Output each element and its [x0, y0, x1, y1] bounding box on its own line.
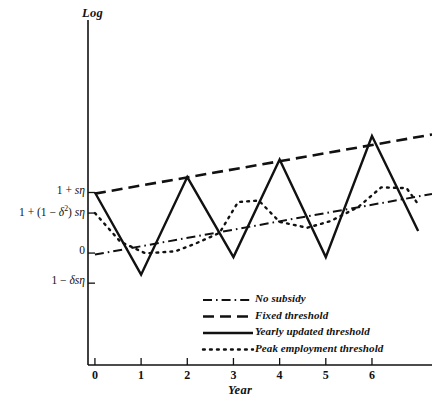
x-tick-label: 3	[223, 368, 243, 383]
x-tick-label: 4	[270, 368, 290, 383]
x-axis-title: Year	[228, 383, 252, 398]
chart-series-layer	[95, 135, 432, 275]
legend-label: Peak employment threshold	[255, 342, 383, 354]
y-tick-label: 0	[79, 244, 85, 256]
legend-label: No subsidy	[255, 292, 306, 304]
x-axis-ticks	[95, 358, 372, 365]
x-tick-label: 2	[177, 368, 197, 383]
x-tick-label: 5	[316, 368, 336, 383]
y-tick-label: 1 − δsη	[51, 274, 85, 286]
legend-label: Yearly updated threshold	[255, 325, 370, 337]
y-tick-label: 1 + sη	[57, 184, 85, 196]
y-tick-label: 1 + (1 − δ2) sη	[19, 204, 85, 218]
x-tick-label: 6	[362, 368, 382, 383]
series-no-subsidy	[95, 194, 432, 255]
y-axis-ticks	[88, 193, 95, 284]
series-fixed-threshold	[95, 135, 432, 194]
series-peak-employment-threshold	[95, 187, 418, 253]
legend-label: Fixed threshold	[255, 309, 328, 321]
chart-figure: Log Year 1 + sη1 + (1 − δ2) sη01 − δsη 0…	[0, 0, 432, 404]
x-tick-label: 0	[85, 368, 105, 383]
y-axis-title: Log	[82, 6, 103, 21]
x-tick-label: 1	[131, 368, 151, 383]
